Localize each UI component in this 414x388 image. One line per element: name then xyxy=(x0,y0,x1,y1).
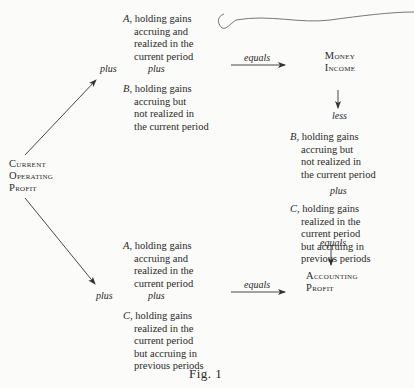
term-line: accruing and xyxy=(123,253,193,266)
term-line: holding gains xyxy=(135,13,192,24)
term-line: realized in the xyxy=(123,323,204,336)
term-line: accruing and xyxy=(123,26,193,39)
term-line: current period xyxy=(123,335,204,348)
term-letter: C, xyxy=(290,203,300,214)
label-line: Profit xyxy=(306,282,358,294)
label-line: Current xyxy=(9,158,53,170)
label-line: Operating xyxy=(9,170,53,182)
lower-equals-label: equals xyxy=(244,279,270,292)
term-line: holding gains xyxy=(135,310,192,321)
term-line: holding gains xyxy=(302,203,359,214)
upper-term-b: B, holding gains accruing but not realiz… xyxy=(123,83,209,133)
term-line: holding gains xyxy=(135,240,192,251)
term-line: holding gains xyxy=(135,83,192,94)
label-line: Money xyxy=(315,50,365,62)
arrow-up-diagonal xyxy=(25,80,96,155)
term-line: realized in the xyxy=(123,38,193,51)
figure-caption: Fig. 1 xyxy=(189,368,222,381)
right-term-c: C, holding gains realized in the current… xyxy=(290,203,371,266)
label-line: Profit xyxy=(9,182,53,194)
op-plus: plus xyxy=(330,185,347,198)
term-line: holding gains xyxy=(302,131,359,142)
term-line: accruing but xyxy=(290,144,376,157)
lower-term-a: A, holding gains accruing and realized i… xyxy=(123,240,193,290)
upper-term-a: A, holding gains accruing and realized i… xyxy=(123,13,193,63)
term-line: but accruing in xyxy=(123,348,204,361)
term-line: previous periods xyxy=(290,253,371,266)
term-letter: C, xyxy=(123,310,133,321)
money-income-label: Money Income xyxy=(315,50,365,74)
term-line: realized in the xyxy=(123,265,193,278)
lower-term-c: C, holding gains realized in the current… xyxy=(123,310,204,373)
term-line: realized in the xyxy=(290,216,371,229)
term-letter: B, xyxy=(123,83,132,94)
current-operating-profit-label: Current Operating Profit xyxy=(9,158,53,194)
upper-plus-left: plus xyxy=(100,63,117,76)
term-line: current period xyxy=(123,51,193,64)
label-line: Income xyxy=(315,62,365,74)
handwritten-mark xyxy=(218,12,414,28)
op-less: less xyxy=(332,110,347,123)
term-line: accruing but xyxy=(123,96,209,109)
term-line: not realized in xyxy=(290,156,376,169)
upper-equals-label: equals xyxy=(244,52,270,65)
lower-plus-left: plus xyxy=(96,290,113,303)
op-equals: equals xyxy=(320,237,346,250)
term-letter: A, xyxy=(123,240,132,251)
term-letter: A, xyxy=(123,13,132,24)
term-line: the current period xyxy=(290,169,376,182)
right-term-b: B, holding gains accruing but not realiz… xyxy=(290,131,376,181)
upper-plus-mid: plus xyxy=(148,63,165,76)
diagram-page: Current Operating Profit plus plus A, ho… xyxy=(0,0,414,388)
arrow-down-diagonal xyxy=(25,198,95,284)
label-line: Accounting xyxy=(306,270,358,282)
lower-plus-mid: plus xyxy=(148,290,165,303)
term-line: the current period xyxy=(123,121,209,134)
accounting-profit-label: Accounting Profit xyxy=(306,270,358,294)
term-line: not realized in xyxy=(123,108,209,121)
term-line: current period xyxy=(123,278,193,291)
term-letter: B, xyxy=(290,131,299,142)
